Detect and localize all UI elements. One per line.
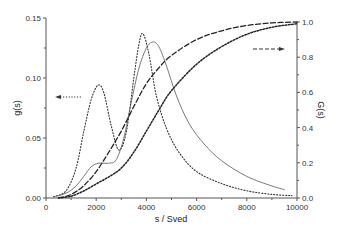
y-tick-label: 0.00 [25, 194, 41, 203]
series-line-0 [54, 33, 293, 196]
x-tick-label: 2000 [87, 203, 105, 212]
x-axis-title: s / Sved [155, 214, 188, 224]
left-axis-title: g(s) [12, 100, 22, 116]
y-tick-label: 0.10 [25, 74, 41, 83]
y-tick-label: 0.05 [25, 134, 41, 143]
tick-labels: 02000400060008000100000.000.050.100.150.… [25, 14, 313, 212]
plot-area: 02000400060008000100000.000.050.100.150.… [12, 14, 326, 224]
y-tick-label: 0.15 [25, 14, 41, 23]
x-tick-label: 10000 [286, 203, 309, 212]
x-tick-label: 6000 [188, 203, 206, 212]
y-right-tick-label: 0.8 [302, 53, 314, 62]
y-right-tick-label: 0.4 [302, 124, 314, 133]
ticks [43, 18, 300, 201]
right-axis-title: G(s) [316, 101, 326, 119]
series-line-1 [54, 42, 285, 197]
series-line-2 [59, 22, 298, 198]
left-axis-arrow-icon [55, 95, 81, 99]
x-tick-label: 8000 [238, 203, 256, 212]
x-tick-label: 0 [44, 203, 49, 212]
y-right-tick-label: 0.0 [302, 194, 314, 203]
x-tick-label: 4000 [138, 203, 156, 212]
series-layer [54, 22, 298, 198]
series-line-3 [59, 24, 298, 198]
chart: 02000400060008000100000.000.050.100.150.… [0, 0, 339, 234]
y-right-tick-label: 1.0 [302, 18, 314, 27]
y-right-tick-label: 0.2 [302, 159, 314, 168]
right-axis-arrow-icon [253, 47, 285, 51]
y-right-tick-label: 0.6 [302, 88, 314, 97]
